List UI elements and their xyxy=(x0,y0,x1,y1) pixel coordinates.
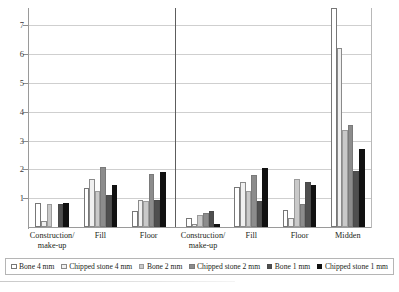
x-category-label-line: Floor xyxy=(125,231,173,241)
chart-legend: Bone 4 mmChipped stone 4 mmBone 2 mmChip… xyxy=(5,258,394,275)
y-tick-label-1: 1 xyxy=(6,194,24,202)
x-category-label-line: Construction/ xyxy=(28,231,76,241)
x-category-label-line: Fill xyxy=(227,231,275,241)
x-category-label-line: make-up xyxy=(28,241,76,251)
x-category-label: Construction/make-up xyxy=(28,231,76,250)
bar xyxy=(262,168,268,227)
legend-label: Bone 4 mm xyxy=(19,262,54,271)
bar xyxy=(112,185,118,227)
page-caption xyxy=(0,283,399,292)
y-tick-label-3: 3 xyxy=(6,137,24,145)
legend-label: Chipped stone 1 mm xyxy=(325,262,388,271)
x-category-label-line: make-up xyxy=(179,241,227,251)
phase-divider xyxy=(175,8,177,227)
legend-item[interactable]: Chipped stone 4 mm xyxy=(61,262,132,271)
gridline-y-3 xyxy=(28,141,372,142)
x-category-label: Construction/make-up xyxy=(179,231,227,250)
gridline-y-2 xyxy=(28,169,372,170)
legend-item[interactable]: Chipped stone 2 mm xyxy=(189,262,260,271)
legend-item[interactable]: Bone 4 mm xyxy=(11,262,54,271)
chart-figure: 1234567 Construction/make-upFillFloorCon… xyxy=(0,0,399,292)
legend-swatch-icon xyxy=(317,264,323,270)
x-category-label: Floor xyxy=(125,231,173,241)
x-category-label-line: Floor xyxy=(275,231,323,241)
x-category-label: Floor xyxy=(275,231,323,241)
x-category-label-line: Fill xyxy=(76,231,124,241)
legend-label: Chipped stone 2 mm xyxy=(197,262,260,271)
gridline-y-6 xyxy=(28,54,372,55)
gridline-y-4 xyxy=(28,112,372,113)
legend-swatch-icon xyxy=(61,264,67,270)
y-tick-label-4: 4 xyxy=(6,108,24,116)
gridline-y-1 xyxy=(28,198,372,199)
gridline-y-5 xyxy=(28,83,372,84)
gridline-y-7 xyxy=(28,25,372,26)
legend-swatch-icon xyxy=(139,264,145,270)
legend-item[interactable]: Bone 1 mm xyxy=(267,262,310,271)
legend-label: Bone 2 mm xyxy=(147,262,182,271)
plot-area xyxy=(28,8,372,227)
bar xyxy=(160,172,166,227)
x-category-label-line: Midden xyxy=(324,231,372,241)
bar xyxy=(311,185,317,227)
y-tick-label-7: 7 xyxy=(6,21,24,29)
x-category-label: Midden xyxy=(324,231,372,241)
y-tick-label-2: 2 xyxy=(6,165,24,173)
legend-item[interactable]: Chipped stone 1 mm xyxy=(317,262,388,271)
x-category-label-line: Construction/ xyxy=(179,231,227,241)
legend-swatch-icon xyxy=(267,264,273,270)
legend-swatch-icon xyxy=(189,264,195,270)
legend-item[interactable]: Bone 2 mm xyxy=(139,262,182,271)
legend-swatch-icon xyxy=(11,264,17,270)
y-tick-label-5: 5 xyxy=(6,79,24,87)
legend-label: Chipped stone 4 mm xyxy=(69,262,132,271)
x-category-label: Fill xyxy=(76,231,124,241)
x-axis-line xyxy=(28,227,372,228)
caption-rule xyxy=(0,281,235,282)
x-category-label: Fill xyxy=(227,231,275,241)
y-axis-line xyxy=(28,8,29,229)
plot-right-border xyxy=(371,8,372,228)
bar xyxy=(47,204,53,227)
bar xyxy=(63,203,69,227)
legend-label: Bone 1 mm xyxy=(275,262,310,271)
bar xyxy=(359,149,365,227)
y-tick-label-6: 6 xyxy=(6,50,24,58)
